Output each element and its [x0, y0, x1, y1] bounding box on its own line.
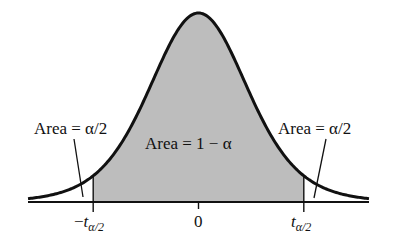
right-tail-area-label: Area = α/2 [278, 119, 351, 138]
tick-label-zero: 0 [194, 212, 203, 231]
left-tail-area-label: Area = α/2 [34, 119, 107, 138]
tick-label-neg-critical: −tα/2 [74, 212, 104, 234]
center-area-label: Area = 1 − α [145, 134, 232, 153]
t-distribution-chart: Area = α/2 Area = 1 − α Area = α/2 −tα/2… [0, 0, 393, 248]
tick-label-pos-critical: tα/2 [291, 212, 311, 234]
central-shaded-area [93, 13, 304, 202]
